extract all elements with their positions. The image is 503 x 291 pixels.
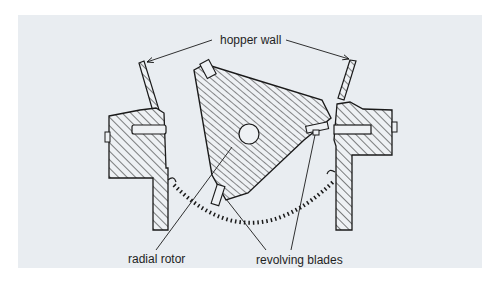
revolving-blades-label: revolving blades [256, 254, 343, 266]
radial-rotor-label: radial rotor [128, 253, 185, 265]
hopper-wall-label: hopper wall [220, 34, 281, 46]
left-hopper-wall [139, 61, 160, 115]
right-hopper-wall [338, 60, 356, 100]
left-housing [105, 108, 176, 230]
right-housing [327, 102, 397, 230]
